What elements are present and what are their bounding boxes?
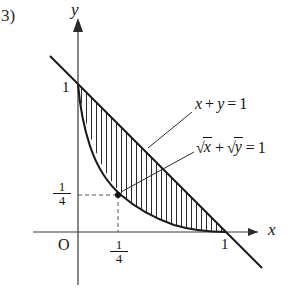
curve-eq-term-y: y (234, 137, 243, 156)
origin-label: O (58, 236, 70, 254)
math-figure: 3) y x O 1 1 1 4 1 4 x+y=1 √x+√y=1 (0, 0, 306, 295)
sqrt-y-radical: √y (227, 138, 243, 157)
leader-line-for-curve-label (121, 152, 194, 192)
y-tick-label-1: 1 (62, 79, 70, 96)
y-axis-arrowhead (73, 18, 83, 32)
x-tick-label-one-quarter: 1 4 (109, 238, 129, 266)
x-axis-label: x (268, 220, 276, 240)
y-tick-label-one-quarter: 1 4 (52, 180, 72, 208)
x-tick-fraction-numerator: 1 (109, 238, 129, 251)
line-eq-equals: = (224, 95, 239, 112)
y-axis-label: y (71, 0, 79, 20)
x-axis-arrowhead (248, 228, 258, 236)
sqrt-x-radical: √x (196, 138, 212, 157)
line-eq-rhs: 1 (239, 95, 247, 112)
curve-eq-term-x: x (203, 137, 212, 156)
leader-line-for-line-label (148, 112, 192, 148)
line-eq-plus: + (202, 95, 217, 112)
label-line-equation: x+y=1 (195, 95, 247, 113)
x-tick-fraction-denominator: 4 (109, 252, 129, 265)
x-tick-label-1: 1 (221, 236, 229, 253)
curve-eq-plus: + (212, 139, 227, 156)
problem-number-label: 3) (1, 6, 15, 26)
y-tick-fraction-numerator: 1 (52, 180, 72, 193)
curve-eq-equals: = (243, 139, 258, 156)
line-x-plus-y-equals-1 (50, 56, 262, 268)
y-tick-fraction-denominator: 4 (52, 194, 72, 207)
curve-eq-rhs: 1 (258, 139, 266, 156)
marked-point-quarter-quarter (115, 192, 121, 198)
label-curve-equation: √x+√y=1 (196, 138, 266, 157)
